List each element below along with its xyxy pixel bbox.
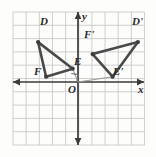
label-D-prime: D' (132, 16, 143, 27)
vertex-D-prime (136, 40, 140, 44)
label-y-axis: y (82, 11, 87, 22)
vertex-D (36, 40, 40, 44)
label-E-prime: E' (113, 66, 123, 77)
vertex-F-prime (91, 52, 95, 56)
vertex-E (71, 67, 75, 71)
label-F: F (34, 66, 41, 77)
triangle-def (38, 42, 73, 77)
coordinate-plane-figure: D E F D' E' F' O y x (0, 0, 156, 157)
label-x-axis: x (138, 84, 144, 95)
vertex-F (44, 75, 48, 79)
label-D: D (40, 16, 48, 27)
label-F-prime: F' (84, 29, 94, 40)
label-origin: O (68, 84, 76, 95)
x-axis-arrow-left (13, 79, 20, 86)
y-axis-arrow-up (75, 12, 82, 19)
label-E: E (74, 56, 81, 67)
y-axis-arrow-down (75, 138, 82, 145)
